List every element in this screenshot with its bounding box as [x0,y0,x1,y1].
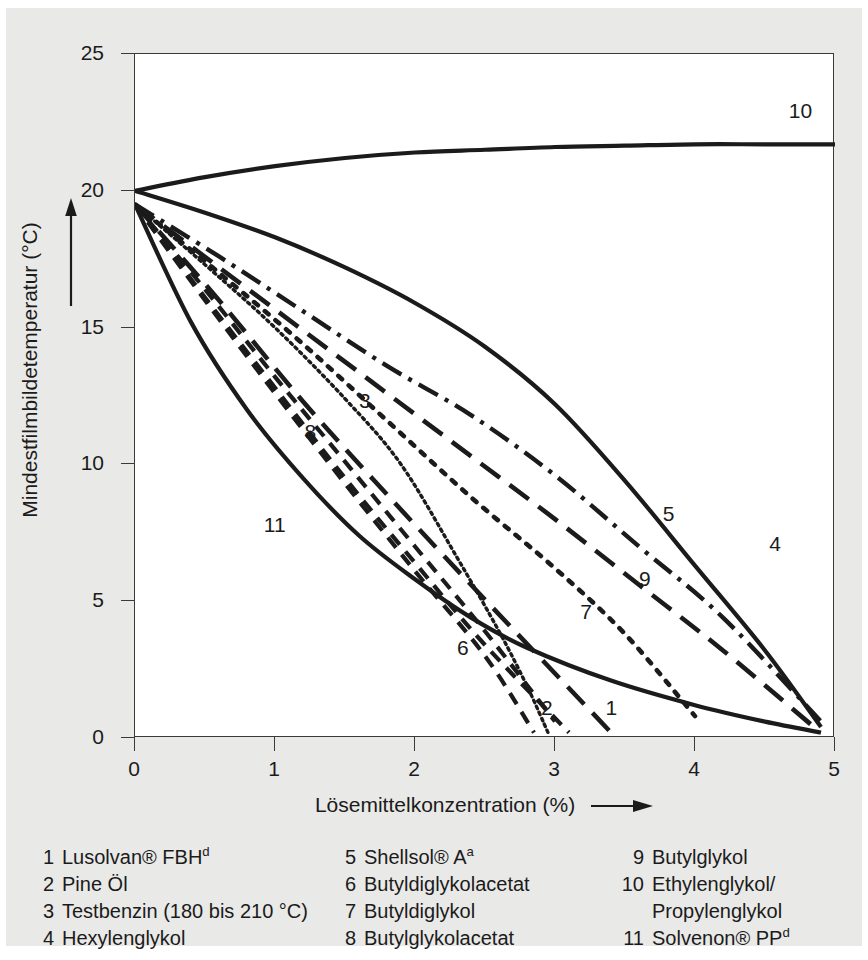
y-axis-arrow-icon [64,198,78,308]
legend-item: 2Pine Öl [38,873,308,900]
figure-background: Mindestfilmbildetemperatur (°C) 05101520… [6,8,862,946]
legend-item-superscript: a [467,844,474,859]
legend-item-label: Pine Öl [62,873,128,896]
y-tick-mark [121,600,134,601]
legend-column-1: 1Lusolvan® FBHd2Pine Öl3Testbenzin (180 … [38,846,308,954]
curves-canvas [135,54,835,738]
legend: 1Lusolvan® FBHd2Pine Öl3Testbenzin (180 … [34,846,854,954]
legend-item-number: 6 [340,873,356,896]
y-tick-label: 25 [58,42,104,63]
legend-item-label: Ethylenglykol/ [652,873,775,896]
legend-item: 11Solvenon® PPd [614,927,790,954]
x-tick-mark [694,737,695,751]
curve-annotation-6: 6 [457,637,469,658]
curve-7 [135,204,695,716]
chart-page: Mindestfilmbildetemperatur (°C) 05101520… [0,0,868,960]
y-tick-label: 10 [58,452,104,473]
y-axis-title: Mindestfilmbildetemperatur (°C) [18,160,42,580]
y-tick-label: 15 [58,316,104,337]
legend-item-superscript: d [782,925,789,940]
x-axis-title: Lösemittelkonzentration (%) [134,793,834,818]
legend-item: 10Ethylenglykol/ [614,873,790,900]
legend-item-label: Shellsol® Aa [364,846,474,869]
y-axis: Mindestfilmbildetemperatur (°C) 05101520… [6,8,134,788]
legend-column-3: 9Butylglykol10Ethylenglykol/Propylenglyk… [614,846,790,954]
legend-item-label: Testbenzin (180 bis 210 °C) [62,900,308,923]
y-tick-mark [121,190,134,191]
curve-10 [135,144,835,191]
legend-item-number: 7 [340,900,356,923]
x-tick-mark [834,737,835,751]
legend-item-label: Propylenglykol [652,900,782,923]
x-axis: 012345 Lösemittelkonzentration (%) [134,737,834,857]
legend-item-label: Butylglykolacetat [364,927,514,950]
curve-9 [135,204,814,727]
x-tick-label: 4 [669,757,719,781]
legend-item-number: 9 [614,846,644,869]
y-tick-mark [121,53,134,54]
plot-area: 1234567891011 [134,53,834,737]
legend-item-number: 2 [38,873,54,896]
x-tick-label: 1 [249,757,299,781]
curve-annotation-2: 2 [541,697,553,718]
x-tick-mark [414,737,415,751]
legend-item: 5Shellsol® Aa [340,846,530,873]
curve-8 [135,204,555,721]
legend-item-number: 1 [38,846,54,869]
curve-annotation-8: 8 [304,421,316,442]
legend-item-label: Butylglykol [652,846,748,869]
curve-annotation-3: 3 [359,390,371,411]
curve-annotation-7: 7 [580,601,592,622]
x-tick-label: 5 [809,757,859,781]
legend-item-number: 3 [38,900,54,923]
legend-item: 8Butylglykolacetat [340,927,530,954]
legend-item: Propylenglykol [614,900,790,927]
x-axis-title-text: Lösemittelkonzentration (%) [315,793,575,816]
legend-item-label: Butyldiglykolacetat [364,873,530,896]
curve-annotation-1: 1 [605,697,617,718]
legend-item-number: 11 [614,927,644,950]
y-tick-label: 0 [58,726,104,747]
legend-item-number: 8 [340,927,356,950]
x-tick-label: 3 [529,757,579,781]
x-axis-arrow-icon [591,794,653,818]
y-tick-label: 5 [58,589,104,610]
y-tick-mark [121,737,134,738]
legend-item: 9Butylglykol [614,846,790,873]
x-tick-mark [274,737,275,751]
x-tick-mark [134,737,135,751]
legend-item-label: Butyldiglykol [364,900,475,923]
legend-item: 3Testbenzin (180 bis 210 °C) [38,900,308,927]
legend-item: 7Butyldiglykol [340,900,530,927]
legend-item-label: Solvenon® PPd [652,927,790,950]
curve-annotation-10: 10 [789,100,812,121]
legend-item-superscript: d [202,844,209,859]
curve-annotation-9: 9 [639,568,651,589]
y-tick-label: 20 [58,179,104,200]
legend-item-label: Hexylenglykol [62,927,185,950]
legend-item-label: Lusolvan® FBHd [62,846,210,869]
x-tick-label: 2 [389,757,439,781]
curve-annotation-5: 5 [663,503,675,524]
legend-item-number: 10 [614,873,644,896]
legend-item: 4Hexylenglykol [38,927,308,954]
curve-annotation-11: 11 [264,514,286,535]
x-tick-mark [554,737,555,751]
legend-item: 1Lusolvan® FBHd [38,846,308,873]
curve-annotation-4: 4 [769,533,781,554]
legend-column-2: 5Shellsol® Aa6Butyldiglykolacetat7Butyld… [340,846,530,954]
legend-item-number: 4 [38,927,54,950]
legend-item: 6Butyldiglykolacetat [340,873,530,900]
curve-6 [135,204,534,732]
y-tick-mark [121,327,134,328]
x-tick-label: 0 [109,757,159,781]
y-tick-mark [121,463,134,464]
legend-item-number: 5 [340,846,356,869]
